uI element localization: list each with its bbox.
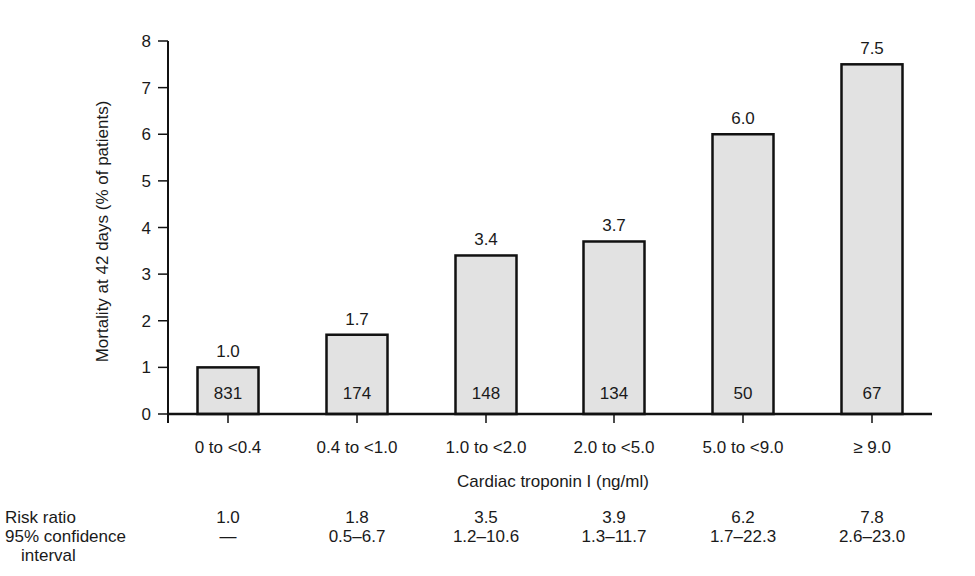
risk-ratio-value: 1.0 bbox=[216, 508, 240, 527]
ci-value: 1.2–10.6 bbox=[453, 527, 519, 546]
ci-label: 95% confidence bbox=[5, 527, 126, 546]
risk-ratio-value: 3.5 bbox=[474, 508, 498, 527]
risk-ratio-value: 3.9 bbox=[602, 508, 626, 527]
ci-value: 1.7–22.3 bbox=[710, 527, 776, 546]
ci-value: 1.3–11.7 bbox=[582, 527, 647, 546]
ci-value: 2.6–23.0 bbox=[839, 527, 905, 546]
risk-ratio-label: Risk ratio bbox=[5, 508, 76, 527]
risk-ratio-value: 1.8 bbox=[345, 508, 369, 527]
risk-ratio-value: 7.8 bbox=[860, 508, 884, 527]
ci-label-line2: interval bbox=[21, 546, 76, 565]
ci-value: 0.5–6.7 bbox=[329, 527, 386, 546]
risk-table: Risk ratio 95% confidence interval 1.01.… bbox=[0, 0, 975, 576]
risk-ratio-value: 6.2 bbox=[731, 508, 755, 527]
ci-value: — bbox=[220, 527, 237, 546]
